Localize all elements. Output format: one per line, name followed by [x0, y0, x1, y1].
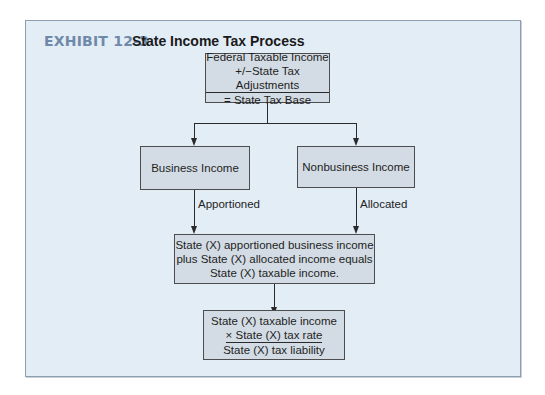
liability-line-3: State (X) tax liability: [223, 343, 325, 357]
taxable-line-3: State (X) taxable income.: [210, 266, 339, 280]
node-state-tax-base: Federal Taxable Income +/−State Tax Adju…: [205, 53, 330, 103]
node-nonbusiness-income: Nonbusiness Income: [297, 146, 415, 188]
node-business-income: Business Income: [140, 146, 250, 190]
taxable-line-2: plus State (X) allocated income equals: [176, 252, 372, 266]
arrow-apportioned: [191, 226, 197, 234]
arrow-allocated: [353, 226, 359, 234]
node-state-tax-liability: State (X) taxable income × State (X) tax…: [203, 310, 345, 360]
business-income-label: Business Income: [151, 161, 239, 175]
liability-line-2: × State (X) tax rate: [226, 328, 323, 343]
connector-top: [267, 103, 268, 123]
liability-line-1: State (X) taxable income: [211, 314, 337, 328]
arrow-to-nonbusiness: [353, 138, 359, 146]
connector-allocated: [356, 188, 357, 228]
edge-label-apportioned: Apportioned: [198, 198, 260, 210]
exhibit-title: State Income Tax Process: [132, 33, 304, 49]
connector-apportioned: [194, 190, 195, 228]
node-state-taxable-income: State (X) apportioned business income pl…: [174, 234, 375, 284]
taxable-line-1: State (X) apportioned business income: [175, 238, 373, 252]
edge-label-allocated: Allocated: [360, 198, 407, 210]
connector-left-down: [194, 123, 195, 139]
state-tax-adjustments: +/−State Tax Adjustments: [206, 64, 329, 93]
connector-right-down: [356, 123, 357, 139]
connector-split: [194, 123, 357, 124]
nonbusiness-income-label: Nonbusiness Income: [302, 160, 409, 174]
arrow-to-business: [191, 138, 197, 146]
federal-taxable-income: Federal Taxable Income: [206, 50, 329, 64]
